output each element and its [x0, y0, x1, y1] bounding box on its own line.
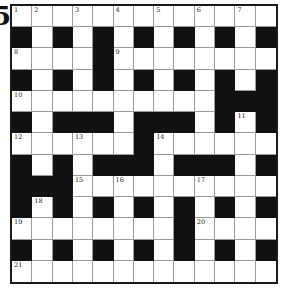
- answer-cell[interactable]: [154, 70, 174, 91]
- answer-cell[interactable]: 13: [73, 133, 93, 154]
- answer-cell[interactable]: 17: [195, 176, 215, 197]
- answer-cell[interactable]: [154, 91, 174, 112]
- answer-cell[interactable]: [53, 133, 73, 154]
- answer-cell[interactable]: 9: [114, 48, 134, 69]
- answer-cell[interactable]: [73, 155, 93, 176]
- answer-cell[interactable]: [134, 218, 154, 239]
- answer-cell[interactable]: [256, 133, 276, 154]
- answer-cell[interactable]: [53, 218, 73, 239]
- answer-cell[interactable]: [256, 176, 276, 197]
- answer-cell[interactable]: [215, 176, 235, 197]
- answer-cell[interactable]: [174, 48, 194, 69]
- answer-cell[interactable]: [73, 197, 93, 218]
- answer-cell[interactable]: [154, 176, 174, 197]
- answer-cell[interactable]: [174, 6, 194, 27]
- answer-cell[interactable]: [114, 70, 134, 91]
- answer-cell[interactable]: [114, 91, 134, 112]
- answer-cell[interactable]: [114, 240, 134, 261]
- answer-cell[interactable]: [235, 261, 255, 282]
- answer-cell[interactable]: [154, 155, 174, 176]
- answer-cell[interactable]: [32, 218, 52, 239]
- answer-cell[interactable]: [235, 70, 255, 91]
- answer-cell[interactable]: [174, 133, 194, 154]
- answer-cell[interactable]: [134, 176, 154, 197]
- answer-cell[interactable]: 2: [32, 6, 52, 27]
- answer-cell[interactable]: [235, 197, 255, 218]
- answer-cell[interactable]: 5: [154, 6, 174, 27]
- answer-cell[interactable]: [195, 27, 215, 48]
- answer-cell[interactable]: 11: [235, 112, 255, 133]
- answer-cell[interactable]: [93, 261, 113, 282]
- answer-cell[interactable]: 15: [73, 176, 93, 197]
- answer-cell[interactable]: [32, 48, 52, 69]
- answer-cell[interactable]: [114, 261, 134, 282]
- answer-cell[interactable]: [256, 6, 276, 27]
- answer-cell[interactable]: [73, 218, 93, 239]
- answer-cell[interactable]: 21: [12, 261, 32, 282]
- answer-cell[interactable]: [73, 27, 93, 48]
- answer-cell[interactable]: 20: [195, 218, 215, 239]
- answer-cell[interactable]: [32, 91, 52, 112]
- answer-cell[interactable]: [32, 112, 52, 133]
- answer-cell[interactable]: 16: [114, 176, 134, 197]
- answer-cell[interactable]: [32, 261, 52, 282]
- answer-cell[interactable]: [114, 27, 134, 48]
- answer-cell[interactable]: [134, 91, 154, 112]
- answer-cell[interactable]: [73, 91, 93, 112]
- answer-cell[interactable]: [154, 240, 174, 261]
- answer-cell[interactable]: [174, 91, 194, 112]
- answer-cell[interactable]: [235, 133, 255, 154]
- answer-cell[interactable]: 18: [32, 197, 52, 218]
- answer-cell[interactable]: [256, 261, 276, 282]
- answer-cell[interactable]: 19: [12, 218, 32, 239]
- answer-cell[interactable]: [114, 133, 134, 154]
- answer-cell[interactable]: [114, 197, 134, 218]
- answer-cell[interactable]: [53, 91, 73, 112]
- answer-cell[interactable]: 3: [73, 6, 93, 27]
- answer-cell[interactable]: [154, 218, 174, 239]
- answer-cell[interactable]: 6: [195, 6, 215, 27]
- answer-cell[interactable]: [235, 155, 255, 176]
- answer-cell[interactable]: [32, 240, 52, 261]
- answer-cell[interactable]: [114, 112, 134, 133]
- answer-cell[interactable]: [134, 48, 154, 69]
- answer-cell[interactable]: 14: [154, 133, 174, 154]
- answer-cell[interactable]: 4: [114, 6, 134, 27]
- answer-cell[interactable]: [154, 261, 174, 282]
- answer-cell[interactable]: [93, 91, 113, 112]
- answer-cell[interactable]: [195, 261, 215, 282]
- answer-cell[interactable]: 10: [12, 91, 32, 112]
- answer-cell[interactable]: [235, 48, 255, 69]
- answer-cell[interactable]: [32, 133, 52, 154]
- answer-cell[interactable]: [32, 155, 52, 176]
- answer-cell[interactable]: [93, 218, 113, 239]
- answer-cell[interactable]: [195, 48, 215, 69]
- answer-cell[interactable]: [114, 218, 134, 239]
- answer-cell[interactable]: [73, 261, 93, 282]
- answer-cell[interactable]: [215, 6, 235, 27]
- answer-cell[interactable]: [174, 176, 194, 197]
- answer-cell[interactable]: [154, 197, 174, 218]
- answer-cell[interactable]: [73, 240, 93, 261]
- answer-cell[interactable]: [154, 48, 174, 69]
- answer-cell[interactable]: [256, 48, 276, 69]
- answer-cell[interactable]: [215, 48, 235, 69]
- answer-cell[interactable]: [93, 6, 113, 27]
- answer-cell[interactable]: 12: [12, 133, 32, 154]
- answer-cell[interactable]: [195, 197, 215, 218]
- answer-cell[interactable]: [215, 218, 235, 239]
- answer-cell[interactable]: 7: [235, 6, 255, 27]
- answer-cell[interactable]: [174, 261, 194, 282]
- answer-cell[interactable]: [195, 112, 215, 133]
- answer-cell[interactable]: [235, 27, 255, 48]
- answer-cell[interactable]: [215, 133, 235, 154]
- answer-cell[interactable]: [134, 6, 154, 27]
- answer-cell[interactable]: [53, 261, 73, 282]
- answer-cell[interactable]: [215, 261, 235, 282]
- answer-cell[interactable]: [256, 218, 276, 239]
- answer-cell[interactable]: 1: [12, 6, 32, 27]
- answer-cell[interactable]: [195, 91, 215, 112]
- answer-cell[interactable]: [235, 218, 255, 239]
- answer-cell[interactable]: [195, 240, 215, 261]
- answer-cell[interactable]: [53, 48, 73, 69]
